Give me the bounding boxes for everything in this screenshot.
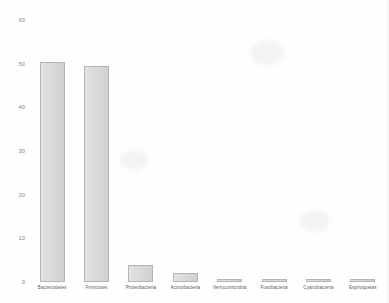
plot-area: 60 50 40 30 20 10 0 BacteroidetesFirmicu… (30, 20, 385, 282)
x-tick-label: Verrucomicrobia (213, 285, 247, 290)
x-tick-label: Proteobacteria (126, 285, 157, 290)
bar-group: Fusobacteria (262, 20, 287, 282)
bar (40, 62, 65, 282)
x-tick-label: Firmicutes (86, 285, 108, 290)
x-tick-label: Fusobacteria (260, 285, 287, 290)
bar-group: Verrucomicrobia (217, 20, 242, 282)
bar-group: Cyanobacteria (306, 20, 331, 282)
bar-group: Bacteroidetes (40, 20, 65, 282)
bar (128, 265, 153, 282)
bar (173, 273, 198, 282)
x-tick-label: Actinobacteria (170, 285, 200, 290)
bar (350, 279, 375, 282)
bar-group: Firmicutes (84, 20, 109, 282)
bar (306, 279, 331, 282)
bar (217, 279, 242, 282)
bar (84, 66, 109, 282)
x-tick-label: Cyanobacteria (303, 285, 333, 290)
y-tick-label: 0 (22, 279, 25, 285)
y-tick-label: 50 (19, 61, 25, 67)
bar-series: BacteroidetesFirmicutesProteobacteriaAct… (30, 20, 385, 282)
x-tick-label: Espiroquetas (349, 285, 376, 290)
y-tick-label: 60 (19, 17, 25, 23)
bar (262, 279, 287, 282)
y-tick-label: 30 (19, 148, 25, 154)
y-tick-label: 40 (19, 104, 25, 110)
y-tick-label: 20 (19, 192, 25, 198)
y-tick-label: 10 (19, 235, 25, 241)
bar-group: Actinobacteria (173, 20, 198, 282)
x-tick-label: Bacteroidetes (38, 285, 67, 290)
bar-group: Espiroquetas (350, 20, 375, 282)
bar-chart: 60 50 40 30 20 10 0 BacteroidetesFirmicu… (0, 0, 389, 303)
bar-group: Proteobacteria (128, 20, 153, 282)
